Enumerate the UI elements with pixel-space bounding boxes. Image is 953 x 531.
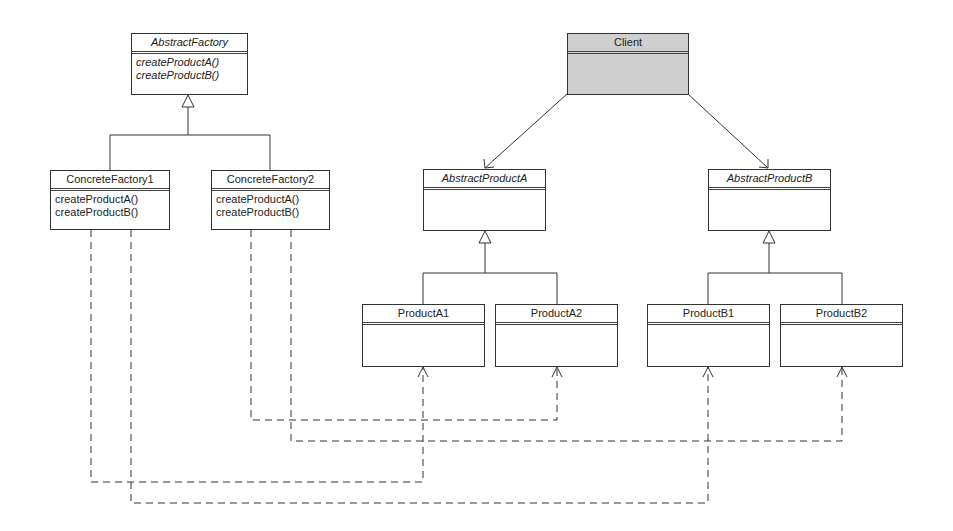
class-name: Client [568,34,688,54]
class-operations: createProductA() createProductB() [132,54,247,84]
operation: createProductB() [55,206,165,219]
class-name: ConcreteFactory2 [212,171,329,191]
class-product-b2: ProductB2 [780,304,903,367]
operation: createProductA() [136,56,243,69]
class-name: ConcreteFactory1 [51,171,169,191]
generalization-products-b [708,231,842,304]
class-product-b1: ProductB1 [647,304,770,367]
class-operations: createProductA() createProductB() [51,191,169,221]
operation: createProductB() [136,69,243,82]
class-name: ProductA2 [496,305,617,325]
class-name: AbstractFactory [132,34,247,54]
class-concrete-factory-2: ConcreteFactory2 createProductA() create… [211,170,330,230]
class-operations: createProductA() createProductB() [212,191,329,221]
operation: createProductA() [55,193,165,206]
generalization-factories [110,95,270,170]
inheritance-arrowhead-icon [479,231,491,243]
inheritance-arrowhead-icon [763,231,775,243]
class-client: Client [567,33,689,95]
class-product-a1: ProductA1 [362,304,485,367]
class-name: AbstractProductB [709,170,830,190]
class-name: ProductB1 [648,305,769,325]
generalization-products-a [423,231,557,304]
class-name: AbstractProductA [424,170,545,190]
class-abstract-product-a: AbstractProductA [423,169,546,231]
class-abstract-factory: AbstractFactory createProductA() createP… [131,33,248,95]
class-name: ProductA1 [363,305,484,325]
association-client-product-a [484,94,567,168]
class-abstract-product-b: AbstractProductB [708,169,831,231]
inheritance-arrowhead-icon [182,95,194,107]
class-name: ProductB2 [781,305,902,325]
class-product-a2: ProductA2 [495,304,618,367]
class-concrete-factory-1: ConcreteFactory1 createProductA() create… [50,170,170,230]
operation: createProductB() [216,206,325,219]
association-client-product-b [688,94,768,168]
operation: createProductA() [216,193,325,206]
